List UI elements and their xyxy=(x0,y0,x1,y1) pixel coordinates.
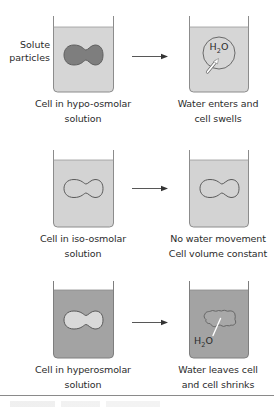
arrow-right-icon xyxy=(132,186,168,191)
cell-normal-light-icon xyxy=(64,311,103,329)
solute-particles-label-line2: particles xyxy=(6,51,50,64)
arrow-right-icon xyxy=(132,320,168,325)
caption-cell-swells: Water enters and cell swells xyxy=(158,97,274,126)
caption-hypo-osmolar: Cell in hypo-osmolar solution xyxy=(23,97,143,126)
bottom-divider xyxy=(0,395,274,396)
caption-volume-constant: No water movement Cell volume constant xyxy=(158,232,274,261)
arrow-right-icon xyxy=(132,54,168,59)
caption-iso-osmolar: Cell in iso-osmolar solution xyxy=(23,232,143,261)
caption-hyperosmolar: Cell in hyperosmolar solution xyxy=(23,363,143,392)
osmosis-diagram: H2O xyxy=(0,0,274,407)
cell-normal-dark-icon xyxy=(64,45,103,65)
solute-particles-label-line1: Solute xyxy=(6,38,50,51)
cell-constant-outline-icon xyxy=(200,180,239,198)
cutoff-text-fragment xyxy=(10,401,160,407)
solute-particles-label: Solute particles xyxy=(6,38,50,64)
cell-normal-outline-icon xyxy=(64,180,103,198)
caption-cell-shrinks: Water leaves cell and cell shrinks xyxy=(158,363,274,392)
